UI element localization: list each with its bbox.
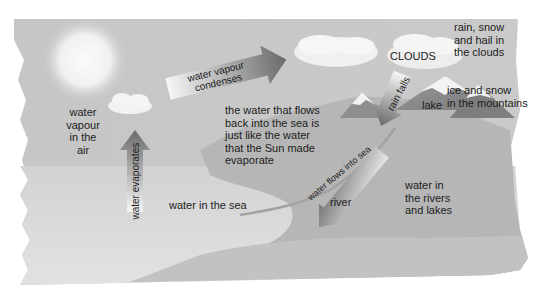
water-rivers-lakes-label: water in the rivers and lakes [405, 179, 452, 217]
label-line: vapour [60, 119, 106, 132]
label-line: that the Sun made [225, 142, 320, 155]
label-line: the rivers [405, 192, 452, 205]
ice-snow-label: ice and snow in the mountains [447, 84, 528, 109]
label-line: rain, snow [454, 21, 504, 34]
cloud-icon [108, 93, 152, 114]
label-line: back into the sea is [225, 117, 320, 130]
label-line: just like the water [225, 129, 320, 142]
evaporates-arrow-label: water evaporates [130, 148, 141, 220]
label-line: evaporate [225, 154, 320, 167]
label-line: and hail in [454, 34, 504, 47]
label-line: the clouds [454, 46, 504, 59]
label-line: and lakes [405, 204, 452, 217]
label-line: water in [405, 179, 452, 192]
label-line: the water that flows [225, 104, 320, 117]
label-line: air [60, 144, 106, 157]
label-line: ice and snow [447, 84, 528, 97]
river-label: river [330, 196, 351, 209]
label-line: in the [60, 131, 106, 144]
sun-icon [43, 18, 127, 102]
lake-label: lake [422, 99, 442, 112]
label-line: water [60, 106, 106, 119]
clouds-label: CLOUDS [390, 50, 436, 63]
water-flows-back-label: the water that flows back into the sea i… [225, 104, 320, 167]
water-vapour-air-label: water vapour in the air [60, 106, 106, 156]
rain-snow-hail-label: rain, snow and hail in the clouds [454, 21, 504, 59]
water-in-sea-label: water in the sea [169, 199, 247, 212]
label-line: in the mountains [447, 97, 528, 110]
